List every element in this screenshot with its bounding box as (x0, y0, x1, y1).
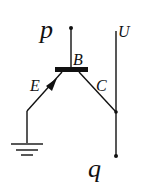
label-q: q (88, 154, 101, 183)
label-u: U (118, 23, 131, 40)
emitter-arrow-icon (46, 78, 57, 91)
label-c: C (96, 77, 107, 94)
transistor-circuit-diagram: p q U B E C (0, 0, 144, 194)
base-bar (55, 67, 88, 72)
label-e: E (29, 77, 40, 94)
label-p: p (38, 15, 53, 44)
ground-icon (11, 144, 43, 155)
terminal-q-dot (114, 154, 118, 158)
label-b: B (73, 51, 83, 68)
